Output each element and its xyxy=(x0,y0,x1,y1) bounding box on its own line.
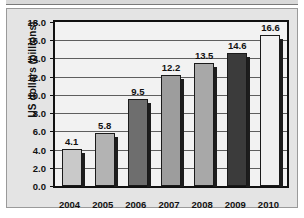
y-tick-label: 8.0 xyxy=(33,108,46,119)
bar-value-label: 4.1 xyxy=(65,136,78,147)
x-tick-label-2004: 2004 xyxy=(59,199,80,210)
bar-2008[interactable] xyxy=(194,63,214,186)
bar-slot: 5.8 xyxy=(95,22,115,186)
bar-2006[interactable] xyxy=(128,99,148,186)
bar-value-label: 14.6 xyxy=(228,40,247,51)
bar-value-label: 13.5 xyxy=(195,50,214,61)
bar-slot: 14.6 xyxy=(227,22,247,186)
x-tick-label-2010: 2010 xyxy=(258,199,279,210)
bar-2009[interactable] xyxy=(227,53,247,186)
y-tick-mark xyxy=(50,95,54,96)
y-tick-mark xyxy=(50,40,54,41)
y-tick-label: 6.0 xyxy=(33,126,46,137)
figure-top-strip xyxy=(6,0,298,5)
bar-value-label: 5.8 xyxy=(98,120,111,131)
y-tick-mark xyxy=(50,113,54,114)
bar-2004[interactable] xyxy=(62,149,82,186)
y-tick-mark xyxy=(50,131,54,132)
x-tick-label-2009: 2009 xyxy=(225,199,246,210)
bar-slot: 16.6 xyxy=(260,22,280,186)
bar-value-label: 16.6 xyxy=(261,22,280,33)
y-tick-mark xyxy=(50,58,54,59)
y-tick-mark xyxy=(50,77,54,78)
x-tick-label-2005: 2005 xyxy=(92,199,113,210)
y-tick-label: 14.0 xyxy=(28,53,47,64)
y-tick-label: 16.0 xyxy=(28,35,47,46)
bar-slot: 12.2 xyxy=(161,22,181,186)
y-tick-label: 2.0 xyxy=(33,162,46,173)
y-tick-label: 10.0 xyxy=(28,89,47,100)
bar-value-label: 12.2 xyxy=(162,62,181,73)
chart-frame: US dollars (billions) 18.016.014.012.010… xyxy=(6,8,298,208)
y-tick-label: 12.0 xyxy=(28,71,47,82)
x-tick-label-2008: 2008 xyxy=(192,199,213,210)
plot-area: 18.016.014.012.010.08.06.04.02.00.0 4.15… xyxy=(53,20,289,188)
y-tick-mark xyxy=(50,168,54,169)
bar-slot: 13.5 xyxy=(194,22,214,186)
x-tick-label-2007: 2007 xyxy=(158,199,179,210)
bar-2007[interactable] xyxy=(161,75,181,186)
y-tick-label: 4.0 xyxy=(33,144,46,155)
y-tick-mark xyxy=(50,186,54,187)
chart-figure: US dollars (billions) 18.016.014.012.010… xyxy=(0,0,304,218)
bar-slot: 4.1 xyxy=(62,22,82,186)
bar-2010[interactable] xyxy=(260,35,280,186)
y-tick-label: 0.0 xyxy=(33,181,46,192)
x-tick-label-2006: 2006 xyxy=(125,199,146,210)
y-tick-mark xyxy=(50,22,54,23)
bar-slot: 9.5 xyxy=(128,22,148,186)
bar-2005[interactable] xyxy=(95,133,115,186)
bar-value-label: 9.5 xyxy=(131,86,144,97)
y-tick-mark xyxy=(50,150,54,151)
y-tick-label: 18.0 xyxy=(28,17,47,28)
